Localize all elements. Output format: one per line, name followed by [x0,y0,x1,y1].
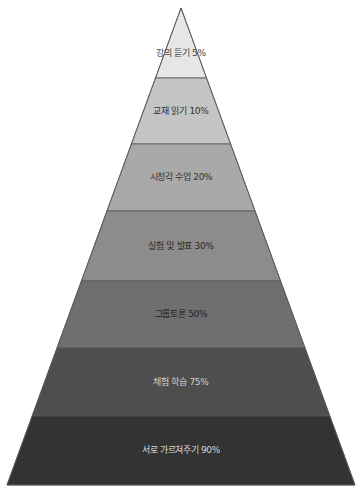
pyramid-layer-label: 교재 읽기 10% [153,106,209,116]
pyramid-layer-label: 서로 가르쳐주기 90% [142,444,221,455]
pyramid-layer [155,8,206,78]
pyramid-layer-label: 실험 및 발표 30% [148,240,214,251]
learning-pyramid: 강의 듣기 5%교재 읽기 10%시청각 수업 20%실험 및 발표 30%그룹… [0,0,362,496]
pyramid-layer-label: 그룹토론 50% [155,309,208,319]
pyramid-layer-label: 시청각 수업 20% [150,171,213,182]
pyramid-layer-label: 체험 학습 75% [153,377,209,387]
